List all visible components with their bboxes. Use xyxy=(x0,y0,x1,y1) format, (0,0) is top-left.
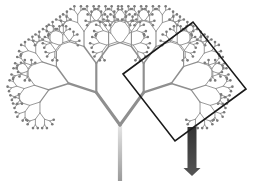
leaf-node xyxy=(15,111,18,114)
leaf-node xyxy=(225,76,228,79)
leaf-node xyxy=(92,51,95,54)
tree-branch xyxy=(28,51,35,53)
leaf-node xyxy=(183,18,186,21)
leaf-node xyxy=(98,5,101,8)
leaf-node xyxy=(153,19,156,22)
leaf-node xyxy=(26,119,29,122)
leaf-node xyxy=(86,5,89,8)
leaf-node xyxy=(44,36,47,39)
leaf-node xyxy=(173,25,176,28)
leaf-node xyxy=(47,34,50,37)
leaf-node xyxy=(34,33,37,36)
tree-branch xyxy=(25,105,30,111)
tree-branch xyxy=(20,89,25,95)
tree-branch xyxy=(40,113,45,119)
arrow-shape xyxy=(184,127,201,176)
tree-branch xyxy=(56,66,68,83)
leaf-node xyxy=(220,50,223,53)
leaf-node xyxy=(154,8,157,11)
tree-branch xyxy=(129,31,136,33)
leaf-node xyxy=(94,8,97,11)
leaf-node xyxy=(207,59,210,62)
leaf-node xyxy=(56,59,59,62)
tree-branch xyxy=(200,113,205,119)
diagram-canvas xyxy=(0,0,263,191)
tree-branch xyxy=(177,43,183,52)
tree-branch xyxy=(156,23,162,32)
leaf-node xyxy=(104,5,107,8)
tree-branch xyxy=(74,10,77,15)
tree-branch xyxy=(145,16,148,21)
leaf-node xyxy=(196,38,199,41)
leaf-node xyxy=(47,24,50,27)
leaf-node xyxy=(82,8,85,11)
leaf-node xyxy=(176,13,179,16)
leaf-node xyxy=(193,51,196,54)
tree-branch xyxy=(137,31,142,33)
leaf-node xyxy=(121,18,124,21)
tree-branch xyxy=(210,103,217,105)
tree-branch xyxy=(97,51,102,53)
leaf-node xyxy=(221,64,224,67)
leaf-node xyxy=(200,35,203,38)
leaf-node xyxy=(46,127,49,130)
leaf-node xyxy=(51,123,54,126)
tree-branch xyxy=(133,43,140,45)
tree-branch xyxy=(67,16,70,21)
leaf-node xyxy=(152,5,155,8)
leaf-node xyxy=(151,13,154,16)
leaf-node xyxy=(90,10,93,13)
leaf-node xyxy=(51,21,54,24)
tree-branch xyxy=(91,16,94,21)
tree-branch xyxy=(184,62,198,67)
leaf-node xyxy=(34,44,37,47)
tree-branch xyxy=(69,83,97,92)
leaf-node xyxy=(84,19,87,22)
leaf-node xyxy=(38,30,41,33)
tree-branch xyxy=(23,51,28,53)
leaf-node xyxy=(92,5,95,8)
leaf-node xyxy=(128,13,131,16)
tree-branch xyxy=(35,113,40,119)
leaf-node xyxy=(24,79,27,82)
leaf-node xyxy=(27,38,30,41)
tree-branch xyxy=(49,83,69,89)
leaf-node xyxy=(146,36,149,39)
leaf-node xyxy=(104,13,107,16)
leaf-node xyxy=(110,5,113,8)
leaf-node xyxy=(145,30,148,33)
leaf-node xyxy=(78,39,81,42)
tree-branch xyxy=(141,43,146,45)
tree-branch xyxy=(141,38,144,43)
tree-branch xyxy=(45,119,50,121)
leaf-node xyxy=(164,5,167,8)
tree-branch xyxy=(40,90,49,102)
leaf-node xyxy=(131,15,134,18)
leaf-node xyxy=(10,73,13,76)
leaf-node xyxy=(18,50,21,53)
leaf-node xyxy=(219,75,222,78)
leaf-node xyxy=(127,5,130,8)
tree-branch xyxy=(111,33,117,42)
leaf-node xyxy=(103,59,106,62)
leaf-node xyxy=(17,71,20,74)
tree-branch xyxy=(223,82,226,87)
leaf-node xyxy=(94,34,97,37)
leaf-node xyxy=(16,102,19,105)
leaf-node xyxy=(228,94,231,97)
down-arrow-icon xyxy=(184,127,201,176)
leaf-node xyxy=(9,94,12,97)
leaf-node xyxy=(13,107,16,110)
tree-branch xyxy=(204,51,211,53)
leaf-node xyxy=(214,59,217,62)
tree-branch xyxy=(20,112,25,114)
leaf-node xyxy=(14,62,17,65)
leaf-node xyxy=(143,33,146,36)
tree-branch xyxy=(206,85,216,88)
leaf-node xyxy=(69,28,72,31)
leaf-node xyxy=(8,79,11,82)
leaf-node xyxy=(168,8,171,11)
fractal-tree-diagram xyxy=(0,0,263,191)
leaf-node xyxy=(58,25,61,28)
tree-branch xyxy=(138,51,143,53)
